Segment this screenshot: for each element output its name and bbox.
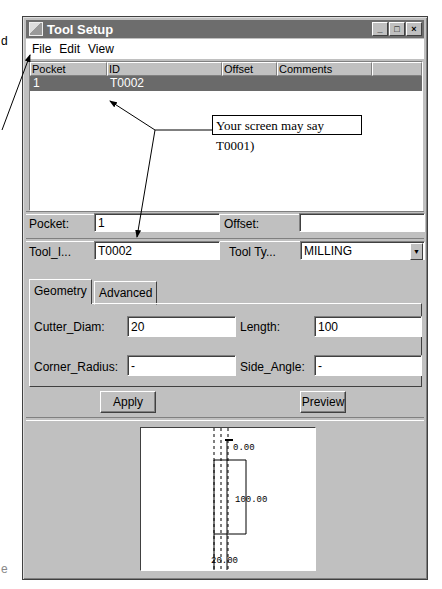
cell-pocket: 1: [30, 76, 108, 91]
offset-input[interactable]: [299, 213, 425, 232]
title-bar[interactable]: Tool Setup _ □ ×: [26, 20, 424, 38]
tool-type-label: Tool Ty...: [229, 245, 276, 259]
column-header-blank: [372, 62, 422, 76]
column-header-pocket[interactable]: Pocket: [30, 62, 107, 76]
tool-type-dropdown[interactable]: MILLING ▼: [300, 241, 425, 260]
tab-geometry-label: Geometry: [34, 284, 87, 298]
close-icon: ×: [411, 25, 416, 34]
divider: [26, 417, 424, 421]
side-angle-label: Side_Angle:: [240, 360, 305, 374]
tool-drawing: 0.00 100.00 20.00: [141, 428, 315, 570]
cell-offset: [222, 76, 274, 91]
window-title: Tool Setup: [47, 22, 113, 37]
table-row[interactable]: 1 T0002: [30, 76, 422, 91]
tool-type-value: MILLING: [304, 244, 352, 258]
cell-comments: [274, 76, 422, 91]
menu-file[interactable]: File: [32, 42, 51, 56]
tool-setup-window: Tool Setup _ □ × File Edit View Pocket I…: [22, 16, 428, 580]
menu-edit[interactable]: Edit: [59, 42, 80, 56]
column-header-offset[interactable]: Offset: [222, 62, 277, 76]
chevron-down-icon[interactable]: ▼: [410, 243, 423, 260]
corner-radius-input[interactable]: -: [127, 355, 236, 376]
margin-annotation-letter: e: [1, 562, 8, 576]
corner-radius-label: Corner_Radius:: [34, 360, 118, 374]
minimize-icon: _: [377, 25, 382, 34]
tool-preview-canvas: 0.00 100.00 20.00: [140, 427, 316, 571]
tool-id-input[interactable]: T0002: [94, 241, 220, 260]
list-header: Pocket ID Offset Comments: [30, 62, 422, 76]
side-angle-input[interactable]: -: [314, 355, 422, 376]
cutter-diam-input[interactable]: 20: [127, 316, 236, 337]
top-dimension-text: 0.00: [233, 443, 255, 453]
length-dimension-text: 100.00: [235, 495, 267, 505]
app-icon: [29, 22, 43, 36]
tab-advanced[interactable]: Advanced: [94, 281, 157, 305]
minimize-button[interactable]: _: [372, 22, 388, 36]
length-input[interactable]: 100: [314, 316, 422, 337]
pocket-label: Pocket:: [29, 217, 69, 231]
pocket-input[interactable]: 1: [94, 213, 220, 232]
maximize-icon: □: [394, 25, 399, 34]
tab-advanced-label: Advanced: [99, 286, 152, 300]
column-header-id[interactable]: ID: [107, 62, 222, 76]
column-header-comments[interactable]: Comments: [277, 62, 372, 76]
cell-id: T0002: [108, 76, 222, 91]
preview-button[interactable]: Preview: [300, 391, 346, 413]
offset-label: Offset:: [224, 217, 259, 231]
menu-view[interactable]: View: [88, 42, 114, 56]
length-label: Length:: [240, 320, 280, 334]
apply-button[interactable]: Apply: [100, 391, 156, 413]
close-button[interactable]: ×: [406, 22, 422, 36]
maximize-button[interactable]: □: [389, 22, 405, 36]
annotation-callout: Your screen may say T0001): [212, 115, 362, 135]
tool-id-label: Tool_I...: [29, 245, 71, 259]
cutter-diam-label: Cutter_Diam:: [34, 320, 105, 334]
menu-bar: File Edit View: [26, 39, 424, 59]
tab-geometry[interactable]: Geometry: [29, 279, 92, 304]
geometry-panel: Cutter_Diam: 20 Length: 100 Corner_Radiu…: [29, 303, 422, 387]
diam-dimension-text: 20.00: [211, 556, 238, 566]
margin-annotation-letter: d: [1, 34, 8, 48]
